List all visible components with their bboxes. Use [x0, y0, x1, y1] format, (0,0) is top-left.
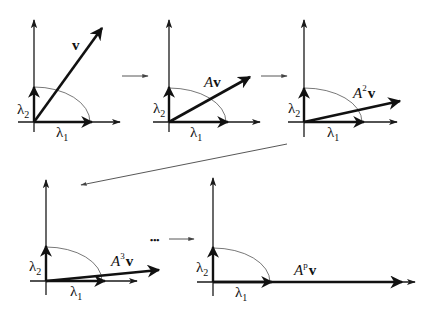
unit-arc: [213, 248, 270, 282]
panel-3: A2v λ2 λ1: [288, 20, 400, 143]
vector-label: A3v: [110, 251, 134, 269]
lambda1-label: λ1: [190, 124, 202, 143]
vector-A2v: [304, 101, 400, 122]
lambda1-label: λ1: [70, 283, 82, 302]
lambda2-label: λ2: [288, 100, 300, 119]
lambda1-label: λ1: [235, 284, 247, 303]
panel-4: A3v λ2 λ1: [29, 180, 159, 302]
lambda2-label: λ2: [29, 258, 41, 277]
ellipsis: •••: [150, 235, 159, 245]
vector-v: [34, 28, 102, 122]
lambda2-label: λ2: [17, 101, 29, 120]
vector-label: A2v: [352, 83, 376, 101]
panel-5: Apv λ2 λ1: [196, 178, 415, 303]
step-arrow-3: [81, 144, 287, 185]
lambda1-label: λ1: [56, 124, 68, 143]
panel-1: v λ2 λ1: [17, 20, 120, 143]
panel-2: Av λ2 λ1: [153, 20, 260, 143]
lambda1-label: λ1: [327, 124, 339, 143]
unit-arc: [34, 87, 90, 122]
vector-label: Av: [203, 74, 221, 90]
vector-label: v: [72, 37, 80, 53]
power-iteration-diagram: v λ2 λ1 Av λ2 λ1 A2v λ2 λ1: [0, 0, 434, 318]
lambda2-label: λ2: [153, 100, 165, 119]
vector-label: Apv: [293, 260, 317, 278]
lambda2-label: λ2: [196, 259, 208, 278]
vector-A3v: [46, 270, 159, 281]
